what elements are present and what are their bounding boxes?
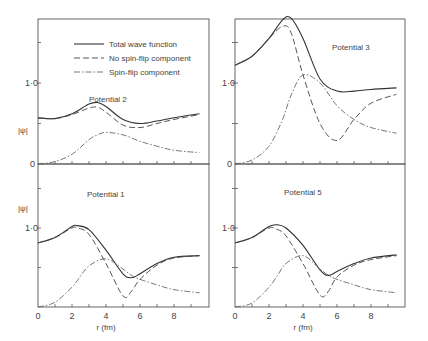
spin-flip-curve <box>38 132 200 164</box>
total-wave-curve <box>235 225 397 276</box>
x-tick-label: 8 <box>368 311 373 321</box>
panel-potential-3: 1·00Potential 3 <box>222 16 405 169</box>
x-tick-label: 2 <box>69 311 74 321</box>
x-tick-label: 0 <box>232 311 237 321</box>
y-axis-label: |ψ| <box>18 204 28 213</box>
figure: 1·00|ψ|Potential 2Total wave functionNo … <box>0 0 428 341</box>
panel-potential-1: 1·0|ψ|02468r (fm)Potential 1 <box>18 164 209 332</box>
y-tick-0: 0 <box>30 159 35 169</box>
x-tick-label: 2 <box>266 311 271 321</box>
x-tick-label: 4 <box>300 311 305 321</box>
x-axis-label: r (fm) <box>293 323 312 332</box>
y-tick-1: 1·0 <box>222 78 235 88</box>
no-spin-flip-curve <box>235 228 397 297</box>
y-tick-1: 1·0 <box>222 223 235 233</box>
y-axis-label: |ψ| <box>18 126 28 135</box>
no-spin-flip-curve <box>38 227 200 298</box>
panel-title: Potential 1 <box>87 190 125 199</box>
y-tick-0: 0 <box>227 159 232 169</box>
legend: Total wave functionNo spin-flip componen… <box>74 40 192 77</box>
x-tick-label: 4 <box>103 311 108 321</box>
legend-item: No spin-flip component <box>109 54 192 63</box>
panel-potential-5: 1·002468r (fm)Potential 5 <box>222 164 405 332</box>
x-tick-label: 8 <box>171 311 176 321</box>
y-tick-1: 1·0 <box>25 78 38 88</box>
x-tick-label: 6 <box>137 311 142 321</box>
x-axis-label: r (fm) <box>96 323 115 332</box>
plot-frame <box>38 164 209 307</box>
plot-frame <box>235 19 405 164</box>
spin-flip-curve <box>38 259 200 307</box>
total-wave-curve <box>38 102 200 123</box>
x-tick-label: 0 <box>35 311 40 321</box>
total-wave-curve <box>235 16 397 92</box>
plot-frame <box>235 164 405 307</box>
panel-potential-2: 1·00|ψ|Potential 2Total wave functionNo … <box>18 19 209 169</box>
panel-title: Potential 5 <box>284 188 322 197</box>
panel-title: Potential 3 <box>332 43 370 52</box>
total-wave-curve <box>38 225 200 278</box>
x-tick-label: 6 <box>334 311 339 321</box>
spin-flip-curve <box>235 74 397 164</box>
legend-item: Spin-flip component <box>109 68 180 77</box>
legend-item: Total wave function <box>109 40 177 49</box>
no-spin-flip-curve <box>235 26 397 141</box>
y-tick-1: 1·0 <box>25 223 38 233</box>
